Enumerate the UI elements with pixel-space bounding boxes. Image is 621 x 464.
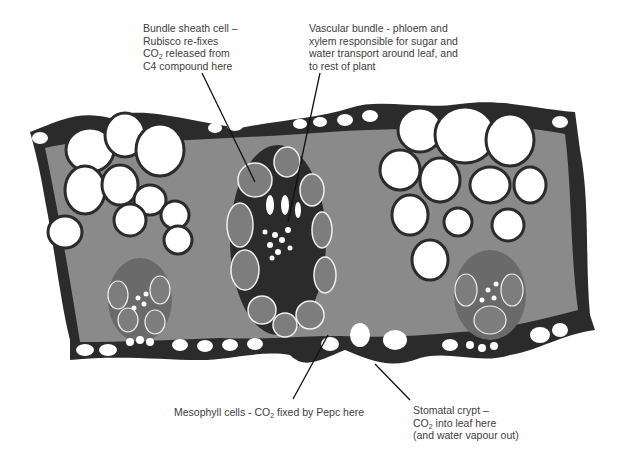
bundle-sheath-line1: Bundle sheath cell – <box>143 22 238 35</box>
vascular-bundle-line2: xylem responsible for sugar and <box>309 35 458 48</box>
stomatal-crypt-line2: CO2 into leaf here <box>413 417 519 430</box>
stomatal-crypt-line3: (and water vapour out) <box>413 429 519 442</box>
vascular-bundle-label: Vascular bundle - phloem and xylem respo… <box>309 22 458 72</box>
vascular-bundle-line4: to rest of plant <box>309 60 458 73</box>
bundle-sheath-label: Bundle sheath cell – Rubisco re-fixes CO… <box>143 22 238 72</box>
bundle-sheath-line3: CO2 released from <box>143 47 238 60</box>
vascular-bundle-line3: water transport around leaf, and <box>309 47 458 60</box>
stomatal-crypt-line1: Stomatal crypt – <box>413 404 519 417</box>
bundle-sheath-line2: Rubisco re-fixes <box>143 35 238 48</box>
stomatal-crypt-leader <box>375 364 410 400</box>
stomatal-crypt-label: Stomatal crypt – CO2 into leaf here (and… <box>413 404 519 442</box>
mesophyll-line: Mesophyll cells - CO2 fixed by Pepc here <box>174 406 364 419</box>
mesophyll-label: Mesophyll cells - CO2 fixed by Pepc here <box>174 406 364 419</box>
vascular-bundle-line1: Vascular bundle - phloem and <box>309 22 458 35</box>
bundle-sheath-line4: C4 compound here <box>143 60 238 73</box>
